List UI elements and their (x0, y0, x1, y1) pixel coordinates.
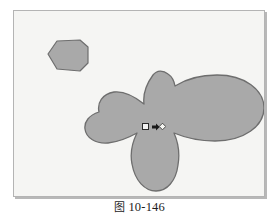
flower-blob-shape (85, 71, 264, 191)
figure-container: 图 10-146 (0, 0, 279, 221)
caption-cjk-label: 图 (114, 201, 125, 214)
selection-square-icon[interactable] (142, 123, 149, 130)
selection-cursor-marker[interactable] (142, 122, 166, 134)
figure-plate (13, 10, 265, 197)
hexagon-shape (48, 40, 88, 71)
caption-number: 10-146 (128, 200, 165, 214)
figure-caption: 图 10-146 (0, 200, 279, 215)
grip-handle-icon[interactable] (159, 123, 166, 130)
figure-canvas (14, 11, 264, 196)
